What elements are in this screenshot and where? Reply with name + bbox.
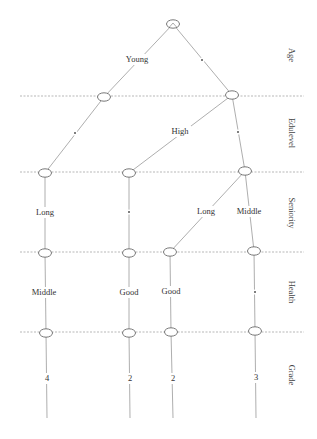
level-label-grade: Grade [287, 365, 297, 386]
grade-value: 4 [43, 373, 51, 384]
grade-value-text: 2 [171, 373, 175, 383]
level-label-edulevel: Edulevel [287, 118, 297, 149]
edge-label: Long [34, 207, 56, 218]
level-label-seniority: Seniority [287, 197, 297, 229]
edge-label: Good [118, 287, 140, 298]
wildcard-icon [201, 59, 203, 61]
tree-node [165, 328, 178, 336]
edge-label-text: Long [36, 207, 55, 217]
edge-label [72, 130, 77, 135]
wildcard-icon [254, 291, 256, 293]
edge-label [235, 129, 240, 134]
tree-node [239, 167, 252, 175]
tree-node [123, 169, 136, 177]
wildcard-icon [128, 211, 130, 213]
wildcard-icon [237, 131, 239, 133]
grade-value: 2 [169, 373, 177, 384]
grade-value-text: 2 [128, 373, 132, 383]
tree-node [98, 93, 111, 101]
edge-label: Young [124, 54, 151, 65]
grade-value: 3 [252, 372, 260, 383]
edge-label [126, 209, 131, 214]
edge-label [252, 289, 257, 294]
edge-label: Middle [28, 287, 60, 298]
tree-node [248, 247, 261, 255]
edge-label-text: Middle [32, 287, 57, 297]
root-node [167, 20, 180, 28]
tree-node [39, 169, 52, 177]
edge-label: High [169, 126, 191, 137]
edge-label: Middle [233, 206, 265, 217]
edge-label: Good [160, 286, 182, 297]
tree-node [123, 249, 136, 257]
tree-node [39, 249, 52, 257]
grade-value: 2 [126, 373, 134, 384]
grade-value-text: 3 [254, 372, 258, 382]
tree-svg: YoungHighLongLongMiddleMiddleGoodGood422… [0, 0, 317, 439]
edge-label-text: Long [197, 206, 216, 216]
edge-label-text: High [172, 126, 190, 136]
tree-node [164, 248, 177, 256]
tree-node [40, 329, 53, 337]
edge-label-text: Good [162, 286, 182, 296]
level-label-age: Age [287, 48, 297, 62]
level-label-health: Health [287, 281, 297, 304]
tree-node [123, 329, 136, 337]
edge-label [199, 57, 204, 62]
tree-node [226, 91, 239, 99]
edge-label: Long [195, 206, 217, 217]
tree-node [249, 327, 262, 335]
decision-tree-diagram: YoungHighLongLongMiddleMiddleGoodGood422… [0, 0, 317, 439]
wildcard-icon [74, 132, 76, 134]
edge-label-text: Good [120, 287, 140, 297]
edge-label-text: Young [126, 54, 149, 64]
edge-label-text: Middle [237, 206, 262, 216]
